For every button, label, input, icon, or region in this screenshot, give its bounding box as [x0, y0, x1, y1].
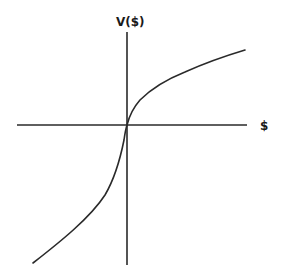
value-curve	[33, 50, 245, 263]
y-axis-label: V($)	[116, 15, 145, 29]
x-axis-label: $	[260, 119, 268, 133]
value-function-diagram: V($) $	[0, 0, 284, 276]
